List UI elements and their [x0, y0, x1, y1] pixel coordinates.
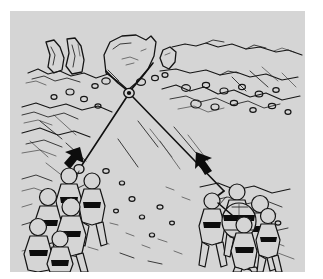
- scene-canvas: [10, 11, 305, 272]
- figure-frame: [0, 0, 323, 279]
- arrow-up-left-icon: [195, 152, 212, 175]
- illustration-plate: [10, 11, 305, 272]
- team-member: [199, 193, 227, 267]
- master-point-carabiner: [124, 88, 134, 97]
- left-rope-leg: [82, 95, 128, 165]
- right-rope-leg: [131, 95, 224, 191]
- right-rescue-team: [199, 184, 282, 272]
- boulder-anchor: [104, 35, 156, 91]
- left-rescue-team: [24, 168, 107, 272]
